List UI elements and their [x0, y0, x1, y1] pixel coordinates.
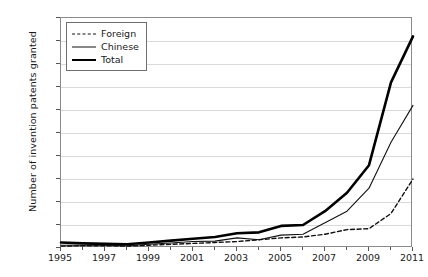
legend-item-foreign: Foreign [72, 27, 139, 40]
legend-swatch-foreign-dashed-line-icon [72, 29, 96, 39]
legend-label-chinese: Chinese [101, 41, 139, 52]
x-tick-label: 2011 [392, 252, 428, 263]
legend-label-total: Total [101, 54, 123, 65]
x-tick-label: 1999 [128, 252, 168, 263]
x-tick-label: 1995 [40, 252, 80, 263]
legend-item-chinese: Chinese [72, 40, 139, 53]
legend: Foreign Chinese Total [66, 22, 147, 71]
x-tick-label: 1997 [84, 252, 124, 263]
y-axis-title: Number of invention patents granted [27, 2, 38, 242]
x-tick-label: 2005 [260, 252, 300, 263]
x-tick-label: 2003 [216, 252, 256, 263]
legend-swatch-total-line-icon [72, 55, 96, 65]
legend-item-total: Total [72, 53, 139, 66]
x-tick-label: 2001 [172, 252, 212, 263]
legend-label-foreign: Foreign [101, 28, 136, 39]
legend-swatch-chinese-line-icon [72, 42, 96, 52]
x-tick-label: 2009 [348, 252, 388, 263]
series-line-foreign [61, 179, 413, 246]
x-tick-label: 2007 [304, 252, 344, 263]
